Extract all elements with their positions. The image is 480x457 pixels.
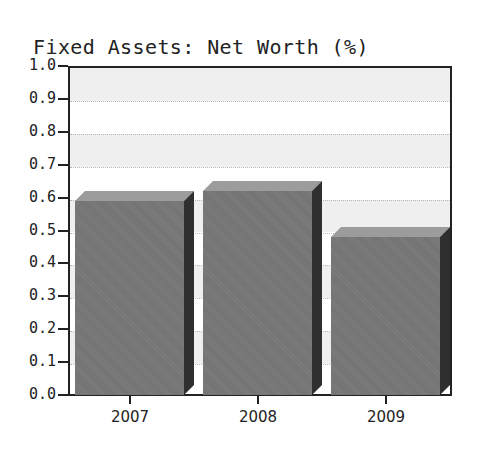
bar-2007 [75,191,194,395]
bar-side-face [184,191,194,395]
x-tick-label: 2007 [90,408,170,426]
y-tick [58,98,68,100]
bar-side-face [312,181,322,395]
y-tick [58,262,68,264]
bar-top-face [203,181,322,191]
y-tick [58,164,68,166]
y-tick [58,65,68,67]
bar-front-face [203,191,312,395]
x-tick-label: 2009 [346,408,426,426]
x-tick-label: 2008 [218,408,298,426]
y-tick-label: 0.5 [0,222,56,238]
y-tick-label: 0.9 [0,90,56,106]
chart-title: Fixed Assets: Net Worth (%) [33,35,369,59]
gridline [70,101,450,102]
x-tick [385,396,387,404]
y-tick [58,361,68,363]
y-tick [58,197,68,199]
y-tick [58,230,68,232]
y-tick-label: 0.6 [0,189,56,205]
y-tick-label: 0.0 [0,386,56,402]
y-tick [58,328,68,330]
y-tick-label: 0.8 [0,123,56,139]
bar-top-face [331,227,450,237]
grid-band [70,134,450,167]
gridline [70,167,450,168]
y-tick-label: 0.7 [0,156,56,172]
bar-front-face [331,237,440,395]
y-tick [58,131,68,133]
y-tick-label: 0.2 [0,320,56,336]
bar-top-face [75,191,194,201]
x-tick [129,396,131,404]
y-tick [58,295,68,297]
grid-band [70,68,450,101]
x-tick [257,396,259,404]
gridline [70,134,450,135]
bar-front-face [75,201,184,395]
bar-2008 [203,181,322,395]
y-tick-label: 0.4 [0,254,56,270]
bar-side-face [440,227,450,395]
y-tick-label: 0.3 [0,287,56,303]
bar-2009 [331,227,450,395]
y-tick-label: 1.0 [0,57,56,73]
y-tick-label: 0.1 [0,353,56,369]
